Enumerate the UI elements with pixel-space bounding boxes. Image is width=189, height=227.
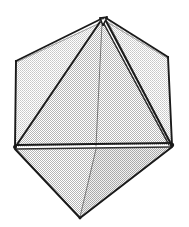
polyhedron-figure: Polyhedron line drawing Shaded wireframe… bbox=[0, 0, 189, 227]
edge-upper-left-to-left bbox=[15, 61, 16, 147]
polyhedron-drawing bbox=[0, 0, 189, 227]
edge-apex-cap bbox=[100, 17, 107, 18]
vertex-upper-right bbox=[167, 56, 169, 58]
vertex-left bbox=[13, 145, 17, 149]
vertex-upper-left bbox=[15, 60, 17, 62]
vertex-bottom bbox=[79, 217, 82, 220]
vertex-right bbox=[170, 143, 174, 147]
